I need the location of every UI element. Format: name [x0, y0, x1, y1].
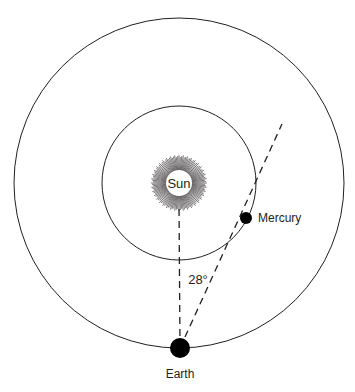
orbit-diagram: Sun Mercury Earth 28° [0, 0, 355, 392]
earth-planet [170, 338, 190, 358]
mercury-planet [240, 212, 252, 224]
earth-mercury-sightline [180, 124, 282, 348]
earth-label: Earth [166, 367, 195, 381]
sun-label: Sun [167, 176, 190, 191]
earth-sun-sightline [179, 205, 180, 348]
elongation-angle-label: 28° [188, 272, 208, 287]
mercury-label: Mercury [258, 211, 301, 225]
